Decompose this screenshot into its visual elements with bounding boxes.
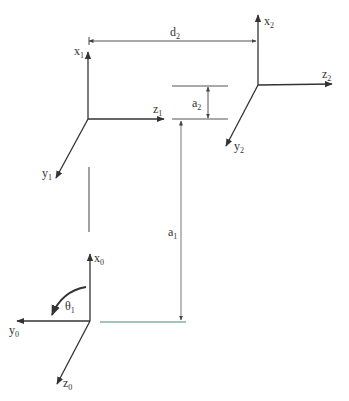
theta1-label: θ1	[65, 299, 75, 315]
dh-frames-diagram: x1 z1 y1 x2 z2 y2 x0 y0 z0 θ1	[0, 0, 349, 401]
x1-label: x1	[74, 44, 84, 60]
y2-axis	[226, 85, 258, 146]
y1-label: y1	[42, 166, 52, 182]
x0-label: x0	[94, 251, 104, 267]
frame-2: x2 z2 y2	[226, 14, 332, 155]
a2-dimension: a2	[172, 86, 228, 119]
y2-label: y2	[234, 139, 244, 155]
a1-dimension: a1	[168, 121, 181, 320]
frame-1: x1 z1 y1	[42, 44, 164, 182]
a1-label: a1	[168, 225, 177, 241]
y1-axis	[56, 119, 88, 178]
d2-label: d2	[170, 25, 180, 41]
z1-label: z1	[153, 102, 162, 118]
z2-axis	[258, 84, 332, 85]
d2-dimension: d2	[89, 25, 256, 45]
z2-label: z2	[322, 67, 331, 83]
z0-axis	[57, 321, 90, 384]
x2-label: x2	[264, 14, 274, 30]
z0-label: z0	[63, 376, 72, 392]
frame-0: x0 y0 z0	[9, 251, 104, 392]
y0-label: y0	[9, 323, 19, 339]
a2-label: a2	[192, 96, 201, 112]
